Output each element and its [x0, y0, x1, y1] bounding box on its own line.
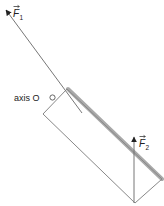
axis-label: axis O [14, 93, 40, 103]
svg-text:2: 2 [146, 144, 150, 151]
force-label-f1: F 1 [13, 5, 24, 21]
svg-text:1: 1 [20, 14, 24, 21]
force-label-f2: F 2 [139, 135, 150, 151]
force-diagram: axis O F 1 F 2 [0, 0, 164, 206]
pivot-circle-icon [50, 95, 55, 100]
